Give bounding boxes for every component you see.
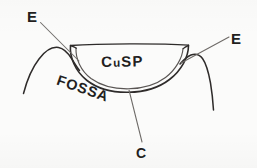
leader-line-e-left — [41, 23, 80, 62]
diagram-linework — [0, 0, 257, 168]
label-cusp-initial: C — [101, 53, 113, 70]
left-rim-shoulder-stroke — [71, 46, 77, 48]
label-cusp-tail: SP — [121, 52, 144, 69]
diagram-canvas: E E C CuSP FOSSA — [0, 0, 257, 168]
label-e-left: E — [27, 8, 38, 25]
right-adjacent-cusp-curve — [180, 54, 214, 110]
leader-line-c — [129, 90, 142, 142]
bowl-top-rim — [71, 44, 189, 46]
right-rim-shoulder-stroke — [183, 46, 188, 49]
label-e-right: E — [231, 30, 242, 47]
label-cusp: CuSP — [101, 52, 144, 70]
label-c-bottom: C — [136, 145, 147, 161]
